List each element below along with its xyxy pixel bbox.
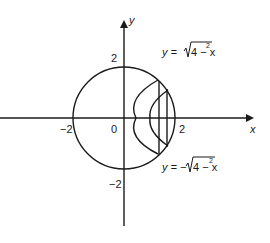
svg-text:2: 2 bbox=[209, 157, 213, 164]
svg-text:4 − x: 4 − x bbox=[193, 161, 218, 173]
x-tick-neg2: −2 bbox=[60, 123, 73, 135]
svg-text:2: 2 bbox=[206, 42, 210, 49]
upper-curve-equation: y = 4 − x 2 bbox=[161, 42, 216, 58]
svg-text:4 − x: 4 − x bbox=[191, 46, 216, 58]
y-axis-label: y bbox=[128, 14, 136, 26]
svg-text:y = −: y = − bbox=[161, 161, 187, 173]
inner-arc-large bbox=[134, 80, 158, 154]
x-axis-label: x bbox=[249, 123, 256, 135]
lower-curve-equation: y = − 4 − x 2 bbox=[161, 157, 218, 173]
x-tick-2: 2 bbox=[179, 123, 185, 135]
svg-text:y =: y = bbox=[161, 46, 178, 58]
origin-label: 0 bbox=[111, 123, 117, 135]
diagram-canvas: y x 0 −2 2 2 −2 y = 4 − x 2 y = − 4 − x … bbox=[0, 0, 270, 243]
y-tick-neg2: −2 bbox=[109, 178, 122, 190]
y-tick-2: 2 bbox=[111, 52, 117, 64]
